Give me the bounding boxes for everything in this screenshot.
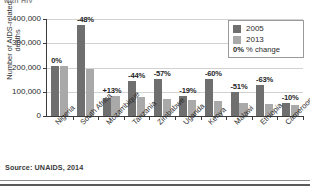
bar-group bbox=[51, 19, 68, 116]
y-tick-label: 400,000 bbox=[12, 15, 41, 23]
source-attribution: Source: UNAIDS, 2014 bbox=[5, 163, 83, 172]
percent-change-label: -51% bbox=[231, 82, 248, 91]
bar-group bbox=[154, 19, 171, 116]
x-tick-mark bbox=[124, 116, 125, 120]
bar-2005 bbox=[205, 79, 213, 116]
x-tick-mark bbox=[201, 116, 202, 120]
x-tick-mark bbox=[149, 116, 150, 120]
x-tick-mark bbox=[226, 116, 227, 120]
y-tick-label: 0 bbox=[37, 112, 41, 120]
bar-2005 bbox=[51, 66, 59, 116]
legend-item-2013: 2013 bbox=[233, 34, 300, 45]
x-tick-mark bbox=[303, 116, 304, 120]
percent-change-label: -10% bbox=[282, 93, 299, 102]
chart-legend: 2005 2013 0% % change bbox=[228, 20, 304, 58]
legend-label-2013: 2013 bbox=[246, 35, 264, 44]
legend-swatch-2005 bbox=[233, 25, 241, 33]
x-tick-mark bbox=[98, 116, 99, 120]
y-tick-label: 100,000 bbox=[12, 88, 41, 96]
percent-change-label: 0% bbox=[51, 56, 62, 65]
percent-change-label: -19% bbox=[179, 86, 196, 95]
x-tick-mark bbox=[277, 116, 278, 120]
percent-change-label: -57% bbox=[154, 69, 171, 78]
aids-deaths-bar-chart: Number of AIDS-related deaths 0100,00020… bbox=[0, 8, 310, 156]
bar-2005 bbox=[77, 25, 85, 116]
bar-2005 bbox=[154, 79, 162, 116]
legend-item-2005: 2005 bbox=[233, 23, 300, 34]
footer-divider bbox=[0, 180, 310, 181]
bar-2005 bbox=[256, 85, 264, 116]
legend-percent-change-note: 0% % change bbox=[233, 45, 300, 55]
bar-group bbox=[77, 19, 94, 116]
percent-change-label: -48% bbox=[77, 15, 94, 24]
y-tick-label: 200,000 bbox=[12, 64, 41, 72]
footer-divider-bottom bbox=[0, 184, 310, 186]
x-tick-mark bbox=[175, 116, 176, 120]
legend-swatch-2013 bbox=[233, 36, 241, 44]
x-tick-mark bbox=[73, 116, 74, 120]
legend-note-key: 0% bbox=[233, 45, 244, 54]
y-tick-label: 300,000 bbox=[12, 39, 41, 47]
bar-group bbox=[205, 19, 222, 116]
bar-2005 bbox=[231, 92, 239, 116]
y-axis-line bbox=[46, 19, 47, 116]
percent-change-label: -44% bbox=[128, 71, 145, 80]
legend-label-2005: 2005 bbox=[246, 24, 264, 33]
x-tick-mark bbox=[252, 116, 253, 120]
percent-change-label: -63% bbox=[256, 75, 273, 84]
percent-change-label: -60% bbox=[205, 69, 222, 78]
legend-note-text: % change bbox=[246, 45, 280, 54]
